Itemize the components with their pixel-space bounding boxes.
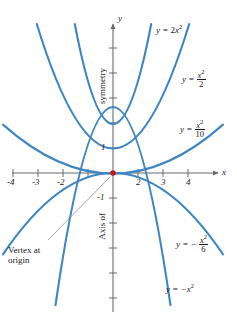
curve-label-y-x2-over-2: y = x2 2 bbox=[182, 71, 206, 90]
vertex-annotation: Vertex at origin bbox=[8, 245, 40, 266]
eq4-fraction: x2 6 bbox=[199, 236, 208, 255]
x-tick-label-2: 2 bbox=[136, 178, 141, 187]
eq5-lhs: y = − bbox=[166, 284, 187, 294]
x-tick-label-4: 4 bbox=[186, 178, 191, 187]
eq3-lhs: y = bbox=[180, 124, 192, 134]
eq1-exp: 2 bbox=[179, 23, 182, 30]
vertex-point bbox=[110, 170, 115, 175]
y-tick-label-1: 1 bbox=[101, 143, 106, 152]
y-tick-label-neg1: -1 bbox=[97, 193, 105, 202]
eq2-num-exp: 2 bbox=[201, 68, 204, 75]
eq5-exp: 2 bbox=[191, 282, 194, 289]
eq2-den: 2 bbox=[197, 79, 206, 89]
vertex-annotation-line2: origin bbox=[8, 255, 40, 265]
eq3-fraction: x2 10 bbox=[195, 121, 206, 140]
eq4-den: 6 bbox=[199, 244, 208, 254]
x-axis-label: x bbox=[222, 168, 226, 177]
eq1-lhs: y = bbox=[156, 25, 168, 35]
curve-label-y-neg-x2-over-6: y = − x2 6 bbox=[176, 236, 208, 255]
parabola-family-figure: x y -4 -3 -2 2 3 4 1 -1 symmetry Axis of… bbox=[0, 0, 237, 318]
coordinate-plane-svg bbox=[0, 0, 237, 318]
x-tick-label-neg4: -4 bbox=[7, 178, 15, 187]
vertex-annotation-line1: Vertex at bbox=[8, 245, 40, 255]
x-tick-label-neg3: -3 bbox=[32, 178, 40, 187]
axis-lines bbox=[12, 24, 218, 312]
eq3-den: 10 bbox=[195, 129, 206, 139]
curve-label-y-2x2: y = 2x2 bbox=[156, 26, 182, 35]
x-tick-label-3: 3 bbox=[161, 178, 166, 187]
axis-of-symmetry-label-lower: Axis of bbox=[97, 213, 107, 240]
curve-label-y-neg-x2: y = −x2 bbox=[166, 285, 194, 294]
curve-label-y-x2-over-10: y = x2 10 bbox=[180, 121, 205, 140]
x-tick-label-neg2: -2 bbox=[57, 178, 65, 187]
eq4-lhs: y = − bbox=[176, 239, 197, 249]
eq2-lhs: y = bbox=[182, 74, 194, 84]
eq4-num-exp: 2 bbox=[204, 233, 207, 240]
axis-of-symmetry-label-upper: symmetry bbox=[97, 68, 107, 104]
y-axis-label: y bbox=[118, 14, 122, 23]
eq3-num-exp: 2 bbox=[200, 118, 203, 125]
eq2-fraction: x2 2 bbox=[197, 71, 206, 90]
